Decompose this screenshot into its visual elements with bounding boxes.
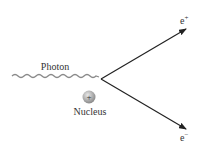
electron-track-arrow	[101, 79, 186, 129]
positron-track-arrow	[101, 29, 186, 79]
photon-wave	[12, 75, 99, 78]
positron-label: e+	[180, 14, 188, 26]
electron-label: e−	[180, 131, 188, 143]
pair-production-diagram: + Photon Nucleus e+ e−	[0, 0, 202, 149]
photon-label: Photon	[41, 61, 69, 72]
nucleus-label: Nucleus	[74, 106, 107, 117]
nucleus-charge: +	[86, 92, 91, 102]
